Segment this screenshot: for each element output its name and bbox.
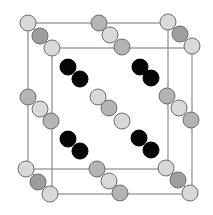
atom-dark (32, 28, 48, 44)
atom-dark (172, 26, 188, 42)
atom-black (143, 70, 159, 86)
atom-light (20, 15, 36, 31)
atom-mid (89, 161, 105, 177)
atom-group-edge-right (159, 88, 199, 128)
atom-black (60, 59, 76, 75)
atom-mid (43, 113, 59, 129)
atom-group-center (90, 89, 130, 129)
atom-light (102, 27, 118, 43)
atom-group-edge-top (91, 15, 130, 55)
atom-group-interior-top-left (60, 59, 88, 87)
atom-group-interior-top-right (132, 59, 159, 86)
atom-light (42, 186, 58, 202)
atom-light (160, 14, 176, 30)
atom-dark (170, 172, 186, 188)
atom-group-interior-bottom-right (131, 130, 159, 158)
atom-dark (30, 174, 46, 190)
crystal-structure-diagram (0, 0, 213, 215)
atom-black (131, 130, 147, 146)
atom-mid (101, 100, 117, 116)
atom-black (143, 142, 159, 158)
atom-light (184, 38, 200, 54)
atom-black (72, 71, 88, 87)
unit-cell-svg (0, 0, 213, 215)
atom-light (44, 40, 60, 56)
atom-light (171, 100, 187, 116)
atom-light (114, 113, 130, 129)
atom-black (60, 131, 76, 147)
atoms-layer (18, 14, 200, 202)
atom-light (182, 185, 198, 201)
atom-mid (20, 89, 36, 105)
atom-group-interior-bottom-left (60, 131, 88, 159)
atom-group-corner-top-left (20, 15, 60, 56)
atom-mid (114, 39, 130, 55)
atom-mid (183, 112, 199, 128)
atom-mid (112, 185, 128, 201)
atom-group-edge-left (20, 89, 59, 129)
atom-group-edge-bottom (89, 161, 128, 201)
atom-light (158, 160, 174, 176)
atom-black (72, 143, 88, 159)
atom-mid (159, 88, 175, 104)
atom-light (18, 161, 34, 177)
